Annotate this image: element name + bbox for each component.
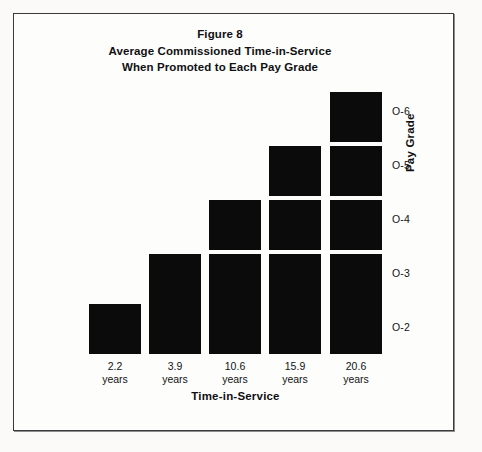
plot-area xyxy=(89,86,382,354)
bar-block xyxy=(209,254,261,304)
x-tick-value: 3.9 xyxy=(168,360,183,372)
bar-block xyxy=(149,254,201,304)
x-axis-title: Time-in-Service xyxy=(89,390,382,402)
x-tick-label-4: 15.9 years xyxy=(269,360,321,386)
bar-block xyxy=(330,92,382,142)
bar-column-2-2-years xyxy=(89,304,141,354)
bar-block xyxy=(89,304,141,354)
bar-column-3-9-years xyxy=(149,250,201,354)
x-tick-label-5: 20.6 years xyxy=(330,360,382,386)
bar-block xyxy=(269,304,321,354)
x-tick-unit: years xyxy=(209,373,261,386)
y-axis-title: Pay Grade xyxy=(404,113,416,172)
bar-block xyxy=(269,146,321,196)
chart-title-line-2: Average Commissioned Time-in-Service xyxy=(20,43,420,60)
y-tick-label-o-3: O-3 xyxy=(392,267,436,279)
bar-column-10-6-years xyxy=(209,196,261,354)
bar-block xyxy=(330,304,382,354)
x-tick-unit: years xyxy=(149,373,201,386)
bar-block xyxy=(330,146,382,196)
bar-block xyxy=(209,200,261,250)
bar-column-20-6-years xyxy=(330,88,382,354)
x-tick-unit: years xyxy=(269,373,321,386)
bar-block xyxy=(330,254,382,304)
chart-title-line-3: When Promoted to Each Pay Grade xyxy=(20,59,420,76)
bar-block xyxy=(330,200,382,250)
figure-canvas: Figure 8 Average Commissioned Time-in-Se… xyxy=(0,0,482,452)
x-tick-label-3: 10.6 years xyxy=(209,360,261,386)
x-tick-label-1: 2.2 years xyxy=(89,360,141,386)
x-tick-value: 20.6 xyxy=(346,360,366,372)
x-tick-unit: years xyxy=(89,373,141,386)
x-tick-value: 2.2 xyxy=(108,360,123,372)
bar-block xyxy=(269,200,321,250)
x-tick-label-2: 3.9 years xyxy=(149,360,201,386)
y-tick-label-o-2: O-2 xyxy=(392,321,436,333)
bar-block xyxy=(149,304,201,354)
bar-column-15-9-years xyxy=(269,142,321,354)
bar-block xyxy=(269,254,321,304)
bar-block xyxy=(209,304,261,354)
x-tick-unit: years xyxy=(330,373,382,386)
x-tick-value: 15.9 xyxy=(285,360,305,372)
y-tick-label-o-4: O-4 xyxy=(392,213,436,225)
x-tick-value: 10.6 xyxy=(225,360,245,372)
chart-title-line-1: Figure 8 xyxy=(20,26,420,43)
chart-title: Figure 8 Average Commissioned Time-in-Se… xyxy=(20,26,420,76)
